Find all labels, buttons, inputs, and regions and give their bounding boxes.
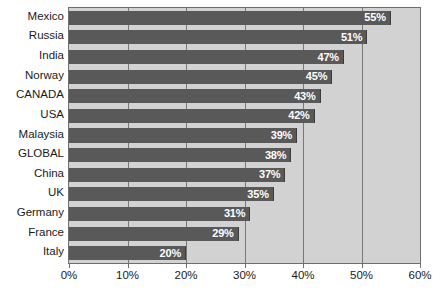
bar-row: 45% xyxy=(69,70,420,84)
x-tick-mark xyxy=(128,264,129,268)
bar-row: 47% xyxy=(69,50,420,64)
category-label: Norway xyxy=(25,70,64,82)
bar: 47% xyxy=(69,50,344,64)
category-label: Germany xyxy=(17,207,64,219)
bar-row: 20% xyxy=(69,246,420,260)
x-tick-mark xyxy=(186,264,187,268)
bar-value-label: 55% xyxy=(364,12,389,23)
bar: 20% xyxy=(69,246,186,260)
category-label: Mexico xyxy=(28,11,64,23)
x-tick-label: 10% xyxy=(116,270,139,282)
bar-value-label: 38% xyxy=(265,150,290,161)
bar-value-label: 37% xyxy=(259,169,284,180)
bar-row: 37% xyxy=(69,168,420,182)
bar-row: 31% xyxy=(69,207,420,221)
bar: 35% xyxy=(69,187,274,201)
x-tick-mark xyxy=(245,264,246,268)
bar-value-label: 43% xyxy=(294,91,319,102)
bar: 29% xyxy=(69,227,239,241)
category-label: GLOBAL xyxy=(18,148,64,160)
bar: 37% xyxy=(69,168,285,182)
bar-value-label: 29% xyxy=(212,228,237,239)
bar: 55% xyxy=(69,11,391,25)
x-tick-label: 0% xyxy=(61,270,78,282)
category-label: Malaysia xyxy=(19,129,64,141)
category-label: CANADA xyxy=(16,89,64,101)
gridline xyxy=(420,8,421,263)
bar-value-label: 31% xyxy=(224,208,249,219)
bar-value-label: 20% xyxy=(160,248,185,259)
category-label: India xyxy=(39,50,64,62)
category-label: UK xyxy=(48,187,64,199)
bar-row: 38% xyxy=(69,148,420,162)
x-tick-mark xyxy=(69,264,70,268)
x-axis: 0%10%20%30%40%50%60% xyxy=(68,264,421,290)
x-tick-mark xyxy=(420,264,421,268)
bar: 43% xyxy=(69,89,321,103)
bar-row: 39% xyxy=(69,128,420,142)
bar-row: 51% xyxy=(69,30,420,44)
bar-value-label: 45% xyxy=(306,71,331,82)
x-tick-label: 50% xyxy=(350,270,373,282)
category-label: Russia xyxy=(29,30,64,42)
x-tick-mark xyxy=(362,264,363,268)
bar-chart: MexicoRussiaIndiaNorwayCANADAUSAMalaysia… xyxy=(0,0,443,296)
bar-row: 29% xyxy=(69,227,420,241)
bar-value-label: 42% xyxy=(288,110,313,121)
bar-row: 43% xyxy=(69,89,420,103)
category-label: China xyxy=(34,168,64,180)
bar: 42% xyxy=(69,109,315,123)
bar-value-label: 47% xyxy=(318,52,343,63)
category-axis: MexicoRussiaIndiaNorwayCANADAUSAMalaysia… xyxy=(0,7,64,264)
x-tick-label: 40% xyxy=(291,270,314,282)
x-tick-mark xyxy=(303,264,304,268)
bar-row: 55% xyxy=(69,11,420,25)
bar: 39% xyxy=(69,128,297,142)
bar-value-label: 39% xyxy=(271,130,296,141)
bar: 38% xyxy=(69,148,291,162)
bars-container: 55%51%47%45%43%42%39%38%37%35%31%29%20% xyxy=(69,8,420,263)
bar: 31% xyxy=(69,207,250,221)
plot-area: 55%51%47%45%43%42%39%38%37%35%31%29%20% xyxy=(68,7,421,264)
bar: 45% xyxy=(69,70,332,84)
category-label: Italy xyxy=(43,246,64,258)
bar: 51% xyxy=(69,30,367,44)
bar-row: 42% xyxy=(69,109,420,123)
bar-value-label: 51% xyxy=(341,32,366,43)
x-tick-label: 20% xyxy=(174,270,197,282)
category-label: USA xyxy=(40,109,64,121)
bar-row: 35% xyxy=(69,187,420,201)
x-tick-label: 60% xyxy=(408,270,431,282)
bar-value-label: 35% xyxy=(247,189,272,200)
category-label: France xyxy=(28,227,64,239)
x-tick-label: 30% xyxy=(233,270,256,282)
